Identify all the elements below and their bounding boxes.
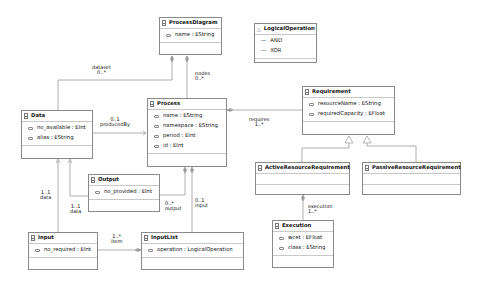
label-execution: execution1..* — [308, 204, 332, 215]
label-requires: requires1..* — [249, 117, 269, 128]
class-passive-resource-requirement[interactable]: PassiveResourceRequirement — [362, 162, 461, 195]
literal-label: XOR — [270, 48, 281, 53]
label-dataset: dataset0..* — [92, 65, 111, 76]
attribute-label: id : EInt — [163, 143, 183, 148]
attribute-label: name : EString — [175, 32, 214, 37]
enum-icon: △ — [257, 27, 261, 32]
execution-diamond — [301, 195, 304, 201]
attribute-label: alias : EString — [37, 135, 74, 140]
attribute-icon — [148, 249, 153, 252]
attribute-label: class : EString — [288, 245, 325, 250]
class-requirement[interactable]: Requirement resourceName : EString requi… — [302, 86, 395, 135]
class-process[interactable]: Process name : EString namespace : EStri… — [147, 98, 227, 167]
label-nodes: nodes0..* — [195, 71, 210, 82]
eclass-icon — [365, 165, 369, 171]
eclass-icon — [150, 101, 154, 107]
attribute-label: namespace : EString — [163, 123, 218, 128]
attribute-label: requiredCapacity : EFloat — [318, 111, 385, 116]
attribute-label: no_provided : EInt — [104, 189, 152, 194]
eclass-icon — [305, 89, 309, 95]
class-name: Data — [31, 113, 45, 118]
attribute-label: name : EString — [163, 113, 202, 118]
class-name: Requirement — [312, 89, 351, 94]
enum-name: LogicalOperation — [264, 26, 315, 31]
attribute-label: no_required : EInt — [44, 247, 91, 252]
attribute-icon — [95, 191, 100, 194]
class-output[interactable]: Output no_provided : EInt — [88, 174, 160, 212]
label-producedBy: 0..1producedBy — [100, 117, 130, 128]
attribute-icon — [28, 127, 33, 130]
attribute-icon — [28, 137, 33, 140]
input-diamond — [190, 167, 193, 173]
class-data[interactable]: Data no_available : EInt alias : EString — [21, 110, 93, 159]
attribute-icon — [279, 247, 284, 250]
eclass-icon — [24, 113, 28, 119]
nodes-diamond — [185, 56, 188, 62]
passive-triangle — [363, 136, 371, 143]
label-input-data: 1..1data — [40, 190, 51, 201]
class-name: PassiveResourceRequirement — [372, 165, 461, 170]
attribute-icon — [309, 103, 314, 106]
attribute-label: wcet : EFloat — [288, 235, 322, 240]
attribute-icon — [154, 115, 159, 118]
label-item: 1..*item — [111, 234, 122, 245]
attribute-icon — [166, 34, 171, 37]
class-name: ProcessDiagram — [169, 20, 217, 25]
attribute-icon — [35, 249, 40, 252]
class-name: Input — [38, 235, 54, 240]
eclass-icon — [91, 177, 95, 183]
eclass-icon — [258, 165, 262, 171]
attribute-icon — [279, 237, 284, 240]
literal-label: AND — [270, 38, 282, 43]
requires-diamond — [227, 108, 233, 111]
class-active-resource-requirement[interactable]: ActiveResourceRequirement — [255, 162, 350, 195]
dataset-diamond — [170, 56, 173, 62]
attribute-label: no_available : EInt — [37, 125, 86, 130]
output-diamond — [183, 167, 186, 173]
eclass-icon — [162, 20, 166, 26]
class-name: Execution — [282, 223, 311, 228]
class-input[interactable]: Input no_required : EInt — [28, 232, 98, 270]
class-name: ActiveResourceRequirement — [265, 165, 350, 170]
eclass-icon — [144, 235, 148, 241]
enum-logical-operation[interactable]: △LogicalOperation —AND —XOR — [254, 23, 317, 63]
eclass-icon — [31, 235, 35, 241]
label-input: 0..1input — [195, 198, 208, 209]
class-name: Output — [98, 177, 119, 182]
attribute-label: resourceName : EString — [318, 101, 381, 106]
active-triangle — [345, 136, 353, 143]
attribute-label: operation : LogicalOperation — [157, 247, 233, 252]
eclass-icon — [275, 223, 279, 229]
output-reference — [160, 172, 185, 195]
output-data-reference — [70, 160, 88, 196]
literal-icon: — — [261, 48, 266, 53]
attribute-label: period : EInt — [163, 133, 195, 138]
literal-icon: — — [261, 38, 266, 43]
attribute-icon — [154, 145, 159, 148]
class-process-diagram[interactable]: ProcessDiagram name : EString — [159, 17, 222, 55]
class-execution[interactable]: Execution wcet : EFloat class : EString — [272, 220, 334, 268]
class-input-list[interactable]: InputList operation : LogicalOperation — [141, 232, 244, 270]
class-name: Process — [157, 101, 180, 106]
attribute-icon — [309, 113, 314, 116]
label-output-data: 1..1data — [70, 204, 81, 215]
attribute-icon — [154, 135, 159, 138]
class-name: InputList — [151, 235, 178, 240]
label-output: 0..*output — [165, 201, 182, 212]
attribute-icon — [154, 125, 159, 128]
